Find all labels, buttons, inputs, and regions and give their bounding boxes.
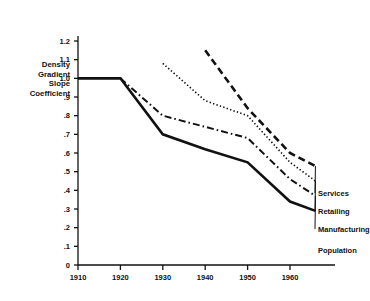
y-axis-tick-label: .3 bbox=[64, 205, 70, 214]
y-axis-tick-label: .7 bbox=[64, 130, 70, 139]
x-axis-tick-label: 1910 bbox=[70, 273, 87, 282]
series-label-retailing: Retailing bbox=[318, 207, 350, 216]
series-label-population: Population bbox=[318, 246, 357, 255]
chart-background bbox=[0, 0, 370, 301]
y-axis-tick-label: .4 bbox=[64, 186, 71, 195]
density-gradient-line-chart: 0.1.2.3.4.5.6.7.8.91.01.11.2 19101920193… bbox=[0, 0, 370, 301]
y-axis-tick-label: 0 bbox=[66, 261, 70, 270]
x-axis-tick-label: 1960 bbox=[282, 273, 299, 282]
y-axis-title-line: Gradient bbox=[38, 70, 70, 79]
y-axis-tick-label: .6 bbox=[64, 149, 70, 158]
y-axis-tick-label: .2 bbox=[64, 223, 70, 232]
y-axis-tick-label: 1.2 bbox=[60, 37, 70, 46]
x-axis-tick-label: 1930 bbox=[154, 273, 171, 282]
y-axis-tick-label: .1 bbox=[64, 242, 70, 251]
x-axis-tick-label: 1940 bbox=[197, 273, 214, 282]
y-axis-title-line: Slope bbox=[49, 79, 71, 88]
series-label-services: Services bbox=[318, 189, 349, 198]
y-axis-title-line: Coefficient bbox=[30, 89, 71, 98]
y-axis-tick-label: .8 bbox=[64, 111, 70, 120]
x-axis-tick-label: 1920 bbox=[112, 273, 129, 282]
y-axis-tick-label: .5 bbox=[64, 167, 70, 176]
y-axis-title-line: Density bbox=[42, 60, 71, 69]
series-label-manufacturing: Manufacturing bbox=[318, 225, 370, 234]
x-axis-tick-label: 1950 bbox=[239, 273, 256, 282]
chart-container: 0.1.2.3.4.5.6.7.8.91.01.11.2 19101920193… bbox=[0, 0, 370, 301]
